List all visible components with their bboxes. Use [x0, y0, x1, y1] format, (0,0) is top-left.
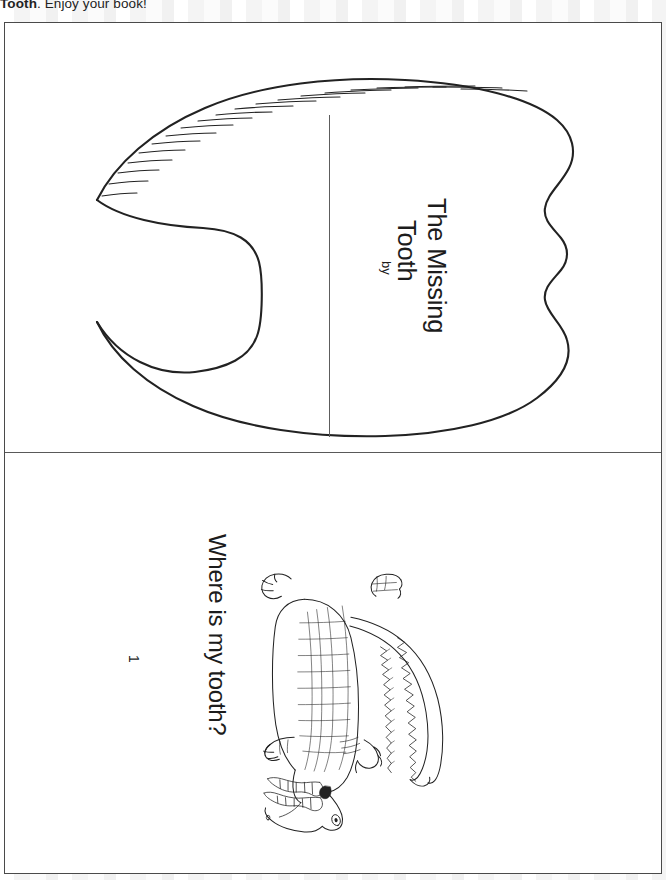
instruction-bold-fragment: Tooth [0, 0, 37, 11]
cover-title-line-1: The Missing [422, 198, 451, 333]
worksheet-sheet: The Missing Tooth by [4, 22, 662, 874]
cover-byline-label: by [379, 261, 394, 275]
cover-title-line-2: Tooth [392, 220, 421, 281]
tooth-icon [75, 68, 605, 443]
panel-cover: The Missing Tooth by [5, 23, 661, 453]
instruction-line: Tooth. Enjoy your book! [0, 0, 340, 14]
instruction-rest: . Enjoy your book! [37, 0, 147, 11]
page-1-number: 1 [126, 655, 142, 663]
cover-vertical-rule [329, 115, 330, 437]
panel-page-1: Where is my tooth? 1 [5, 453, 661, 874]
alligator-icon [251, 561, 617, 837]
page-1-caption: Where is my tooth? [203, 534, 231, 735]
